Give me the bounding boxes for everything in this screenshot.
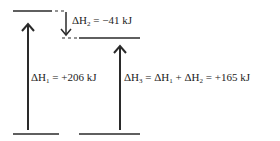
dh3-label: ΔH3 = ΔH1 + ΔH2 = +165 kJ: [124, 71, 250, 85]
dh3-arrow-up-icon: [114, 46, 126, 130]
dh2-label: ΔH2 = −41 kJ: [72, 14, 132, 28]
dh2-arrow-down-icon: [61, 12, 71, 35]
dh1-label: ΔH1 = +206 kJ: [31, 71, 96, 85]
